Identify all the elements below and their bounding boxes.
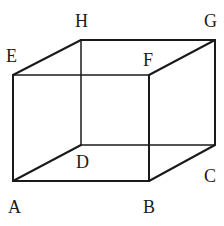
label-h: H <box>75 11 88 31</box>
cuboid-diagram: A B C D E F G H <box>0 0 224 226</box>
label-c: C <box>204 166 216 186</box>
label-b: B <box>143 197 155 217</box>
edge-he <box>13 40 81 75</box>
label-d: D <box>76 152 89 172</box>
label-e: E <box>6 46 17 66</box>
edges <box>13 40 215 181</box>
edge-da <box>13 145 81 181</box>
label-f: F <box>143 50 153 70</box>
vertex-labels: A B C D E F G H <box>6 11 217 217</box>
label-a: A <box>8 197 21 217</box>
label-g: G <box>204 11 217 31</box>
edge-fg <box>149 40 215 75</box>
